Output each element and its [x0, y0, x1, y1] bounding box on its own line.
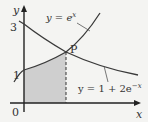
equation-exp: y = ex	[45, 11, 76, 23]
y-tick-1: 1	[13, 69, 20, 82]
shaded-region	[24, 52, 66, 103]
diagram: y x 0 3 1 P y = ex y = 1 + 2e−x	[0, 0, 148, 122]
x-axis-label: x	[136, 108, 143, 121]
origin-label: 0	[12, 106, 19, 119]
y-axis-label: y	[12, 4, 20, 17]
equation-decay: y = 1 + 2e−x	[77, 82, 142, 94]
y-axis-arrow-icon	[21, 5, 27, 12]
leader-decay	[104, 66, 108, 82]
point-p-label: P	[70, 43, 78, 56]
y-tick-3: 3	[10, 21, 17, 34]
x-axis-arrow-icon	[134, 100, 141, 106]
leader-exp	[77, 23, 90, 31]
